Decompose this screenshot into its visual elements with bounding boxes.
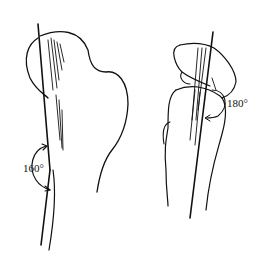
femur-angle-diagram: 160° 180° <box>0 0 268 269</box>
left-angle-label: 160° <box>23 162 44 174</box>
right-angle-label: 180° <box>227 97 248 109</box>
right-femur <box>163 32 236 218</box>
femur-drawings <box>0 0 268 269</box>
left-femur <box>26 24 128 250</box>
